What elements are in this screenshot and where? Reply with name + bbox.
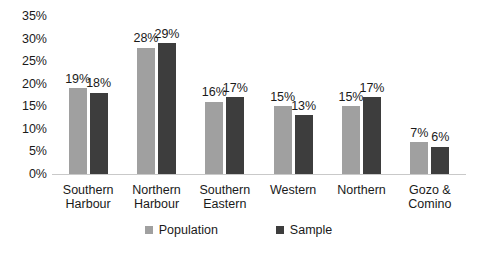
legend-label: Population — [159, 224, 218, 237]
bar-value-label: 6% — [431, 131, 449, 144]
category-axis-labels: SouthernHarbourNorthernHarbourSouthernEa… — [54, 183, 464, 211]
y-axis-tick-label: 25% — [22, 55, 47, 68]
bar-column: 19% — [69, 16, 87, 174]
legend-item-population[interactable]: Population — [145, 224, 218, 237]
bar-population — [410, 142, 428, 174]
bar-sample — [90, 93, 108, 174]
category-label-line: Eastern — [191, 197, 259, 211]
bar-sample — [158, 43, 176, 174]
bar-sample — [295, 115, 313, 174]
bar-sample — [431, 147, 449, 174]
y-axis-tick-label: 0% — [29, 168, 47, 181]
bar-chart: 0%5%10%15%20%25%30%35% 19%18%28%29%16%17… — [0, 0, 477, 254]
bar-group: 19%18% — [54, 16, 122, 174]
legend-swatch-icon — [276, 226, 284, 234]
y-axis-tick-label: 20% — [22, 77, 47, 90]
bar-column: 6% — [431, 16, 449, 174]
bar-column: 18% — [90, 16, 108, 174]
bar-population — [69, 88, 87, 174]
bar-group: 7%6% — [396, 16, 464, 174]
category-label-line: Southern — [191, 183, 259, 197]
bar-group: 15%13% — [259, 16, 327, 174]
x-axis-baseline — [52, 174, 466, 175]
bar-value-label: 13% — [291, 100, 316, 113]
bar-population — [205, 102, 223, 174]
category-label: Northern — [327, 183, 395, 211]
bar-column: 29% — [158, 16, 176, 174]
category-label-line: Gozo & — [396, 183, 464, 197]
bar-sample — [226, 97, 244, 174]
bar-column: 15% — [274, 16, 292, 174]
bar-population — [274, 106, 292, 174]
category-label-line: Western — [259, 183, 327, 197]
y-axis-tick-label: 35% — [22, 10, 47, 23]
bar-value-label: 17% — [359, 82, 384, 95]
bar-population — [137, 48, 155, 174]
bar-column: 17% — [363, 16, 381, 174]
bar-column: 17% — [226, 16, 244, 174]
legend-label: Sample — [290, 224, 332, 237]
bar-group: 16%17% — [191, 16, 259, 174]
chart-legend: PopulationSample — [0, 224, 477, 237]
bar-column: 28% — [137, 16, 155, 174]
y-axis-tick-label: 5% — [29, 145, 47, 158]
y-axis-tick-label: 30% — [22, 32, 47, 45]
bar-population — [342, 106, 360, 174]
category-label-line: Northern — [122, 183, 190, 197]
plot-area: 19%18%28%29%16%17%15%13%15%17%7%6% — [54, 16, 464, 174]
bar-column: 13% — [295, 16, 313, 174]
category-label-line: Southern — [54, 183, 122, 197]
y-axis: 0%5%10%15%20%25%30%35% — [0, 0, 54, 254]
y-axis-tick-label: 10% — [22, 123, 47, 136]
category-label-line: Comino — [396, 197, 464, 211]
category-label-line: Harbour — [122, 197, 190, 211]
bar-value-label: 7% — [410, 127, 428, 140]
category-label: Western — [259, 183, 327, 211]
bar-value-label: 18% — [86, 77, 111, 90]
bar-column: 16% — [205, 16, 223, 174]
bar-group: 28%29% — [122, 16, 190, 174]
bar-column: 7% — [410, 16, 428, 174]
category-label: SouthernHarbour — [54, 183, 122, 211]
category-label-line: Northern — [327, 183, 395, 197]
bar-sample — [363, 97, 381, 174]
bar-column: 15% — [342, 16, 360, 174]
category-label: NorthernHarbour — [122, 183, 190, 211]
bar-value-label: 17% — [223, 82, 248, 95]
bar-value-label: 29% — [154, 28, 179, 41]
legend-item-sample[interactable]: Sample — [276, 224, 332, 237]
category-label: Gozo &Comino — [396, 183, 464, 211]
legend-swatch-icon — [145, 226, 153, 234]
bar-group: 15%17% — [327, 16, 395, 174]
category-label-line: Harbour — [54, 197, 122, 211]
y-axis-tick-label: 15% — [22, 100, 47, 113]
category-label: SouthernEastern — [191, 183, 259, 211]
